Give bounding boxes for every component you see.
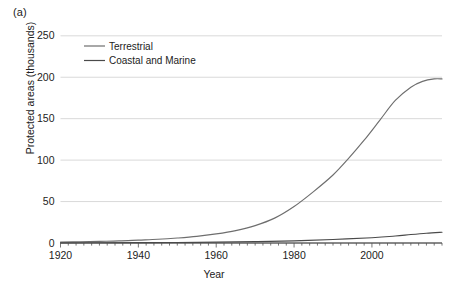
chart-figure: (a) Protected areas (thousands) Year 050… bbox=[0, 0, 458, 296]
y-tick-label-200: 200 bbox=[37, 71, 55, 83]
series-lines-group bbox=[61, 79, 443, 243]
y-tick-label-250: 250 bbox=[37, 29, 55, 41]
x-tick-label-1980: 1980 bbox=[282, 249, 306, 261]
x-tick-label-1920: 1920 bbox=[49, 249, 73, 261]
y-tick-labels-group: 050100150200250 bbox=[37, 29, 55, 248]
x-axis-group bbox=[61, 243, 443, 248]
legend-group: TerrestrialCoastal and Marine bbox=[84, 41, 196, 67]
x-tick-label-2000: 2000 bbox=[360, 249, 384, 261]
x-tick-label-1960: 1960 bbox=[205, 249, 229, 261]
plot-canvas: 050100150200250 19201940196019802000 Ter… bbox=[0, 0, 458, 296]
legend-label-terrestrial: Terrestrial bbox=[109, 41, 153, 52]
gridlines-group bbox=[61, 36, 443, 243]
x-tick-label-1940: 1940 bbox=[127, 249, 151, 261]
y-tick-label-150: 150 bbox=[37, 112, 55, 124]
y-tick-label-0: 0 bbox=[49, 237, 55, 249]
legend-label-coastal-and-marine: Coastal and Marine bbox=[109, 55, 196, 66]
y-tick-label-100: 100 bbox=[37, 154, 55, 166]
y-tick-label-50: 50 bbox=[43, 195, 55, 207]
x-tick-labels-group: 19201940196019802000 bbox=[49, 249, 384, 261]
